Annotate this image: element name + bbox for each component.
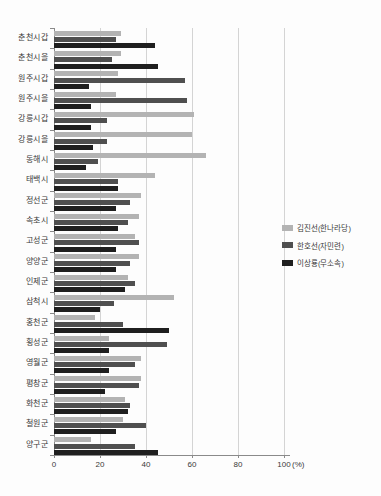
category-label: 평창군 (0, 374, 48, 394)
bar-segment (54, 368, 109, 373)
bar-segment (54, 267, 116, 272)
bar-segment (54, 356, 141, 361)
bar-segment (54, 261, 130, 266)
bar-segment (54, 450, 158, 455)
bar-segment (54, 186, 118, 191)
bar-segment (54, 118, 107, 123)
bar-chart: 020406080100(%)춘천시갑춘천시을원주시갑원주시을강릉시갑강릉시을동… (0, 0, 381, 496)
legend-swatch-icon (282, 260, 293, 266)
bar-segment (54, 226, 118, 231)
category-label: 삼척시 (0, 292, 48, 312)
category-label: 춘천시갑 (0, 28, 48, 48)
gridline (192, 28, 193, 455)
y-axis-tick (50, 374, 54, 375)
bar-segment (54, 64, 158, 69)
x-tick-label: 40 (131, 460, 161, 469)
bar-segment (54, 348, 109, 353)
y-axis-tick (50, 109, 54, 110)
category-label: 철원군 (0, 414, 48, 434)
bar-segment (54, 423, 146, 428)
bar-segment (54, 383, 139, 388)
bar-segment (54, 145, 93, 150)
bar-segment (54, 84, 89, 89)
bar-segment (54, 403, 130, 408)
bar-segment (54, 57, 112, 62)
bar-segment (54, 71, 118, 76)
y-axis-tick (50, 333, 54, 334)
x-axis-tick (192, 455, 193, 458)
category-label: 원주시갑 (0, 69, 48, 89)
bar-segment (54, 98, 187, 103)
bar-segment (54, 165, 86, 170)
bar-segment (54, 254, 139, 259)
x-axis-tick (54, 455, 55, 458)
bar-segment (54, 92, 116, 97)
bar-segment (54, 275, 128, 280)
bar-segment (54, 322, 123, 327)
category-label: 홍천군 (0, 313, 48, 333)
y-axis-tick (50, 414, 54, 415)
bar-segment (54, 281, 135, 286)
x-tick-label: 80 (223, 460, 253, 469)
bar-segment (54, 409, 128, 414)
x-tick-label: 0 (39, 460, 69, 469)
bar-segment (54, 342, 167, 347)
bar-segment (54, 315, 95, 320)
y-axis-tick (50, 170, 54, 171)
y-axis-tick (50, 292, 54, 293)
bar-segment (54, 139, 107, 144)
bar-segment (54, 37, 116, 42)
category-label: 춘천시을 (0, 48, 48, 68)
y-axis-tick (50, 272, 54, 273)
x-tick-label: 60 (177, 460, 207, 469)
bar-segment (54, 132, 192, 137)
bar-segment (54, 234, 135, 239)
bar-segment (54, 179, 118, 184)
category-label: 화천군 (0, 394, 48, 414)
y-axis-tick (50, 211, 54, 212)
y-axis-tick (50, 191, 54, 192)
bar-segment (54, 397, 125, 402)
legend-label: 이상룡(무소속) (297, 257, 344, 268)
y-axis-tick (50, 69, 54, 70)
bar-segment (54, 43, 155, 48)
bar-segment (54, 240, 139, 245)
legend-item: 한호선(자민련) (282, 237, 351, 255)
bar-segment (54, 437, 91, 442)
x-axis-tick (284, 455, 285, 458)
legend-item: 이상룡(무소속) (282, 254, 351, 272)
category-label: 인제군 (0, 272, 48, 292)
bar-segment (54, 389, 105, 394)
category-label: 양양군 (0, 252, 48, 272)
y-axis-tick (50, 435, 54, 436)
bar-segment (54, 200, 130, 205)
y-axis-tick (50, 252, 54, 253)
legend-item: 김진선(한나라당) (282, 219, 351, 237)
bar-segment (54, 376, 141, 381)
category-label: 속초시 (0, 211, 48, 231)
legend-label: 김진선(한나라당) (297, 222, 351, 233)
x-axis-tick (100, 455, 101, 458)
bar-segment (54, 125, 91, 130)
bar-segment (54, 362, 135, 367)
y-axis-tick (50, 48, 54, 49)
axis-unit-label: (%) (292, 460, 304, 469)
bar-segment (54, 328, 169, 333)
category-label: 고성군 (0, 231, 48, 251)
y-axis-tick (50, 231, 54, 232)
y-axis-tick (50, 28, 54, 29)
legend-swatch-icon (282, 242, 293, 248)
category-label: 정선군 (0, 191, 48, 211)
bar-segment (54, 173, 155, 178)
bar-segment (54, 51, 121, 56)
category-label: 양구군 (0, 435, 48, 455)
category-label: 횡성군 (0, 333, 48, 353)
bar-segment (54, 417, 123, 422)
x-axis-tick (146, 455, 147, 458)
bar-segment (54, 214, 139, 219)
bar-segment (54, 247, 116, 252)
gridline (146, 28, 147, 455)
bar-segment (54, 193, 141, 198)
bar-segment (54, 295, 174, 300)
bar-segment (54, 287, 125, 292)
